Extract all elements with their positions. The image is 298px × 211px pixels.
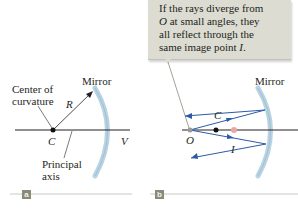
radius-label: R — [66, 98, 73, 110]
center-point — [51, 128, 56, 133]
center-leader-line — [38, 106, 52, 128]
principal-axis-label-1: Principal — [42, 158, 82, 170]
axis-leader-line — [64, 131, 72, 158]
mirror-label: Mirror — [255, 75, 284, 87]
principal-axis-label-2: axis — [42, 170, 60, 182]
center-point — [214, 128, 219, 133]
center-of-curvature-label-2: curvature — [12, 95, 54, 107]
center-of-curvature-label-1: Center of — [12, 83, 53, 95]
panel-b: If the rays diverge from O at small angl… — [145, 0, 298, 211]
light-rays — [185, 110, 266, 158]
mirror-label: Mirror — [82, 75, 111, 87]
image-label: I — [231, 143, 235, 155]
panel-b-tag: b — [155, 190, 164, 199]
object-label: O — [186, 134, 194, 146]
vertex-label: V — [121, 135, 128, 147]
center-label: C — [214, 109, 221, 121]
image-point — [231, 127, 237, 133]
panel-a-tag: a — [22, 190, 31, 199]
object-point — [188, 128, 193, 133]
panel-a: Mirror Center of curvature R C V Princip… — [0, 0, 145, 211]
panel-b-diagram — [145, 0, 298, 211]
center-label: C — [48, 135, 55, 147]
callout-pointer-line — [168, 62, 189, 128]
